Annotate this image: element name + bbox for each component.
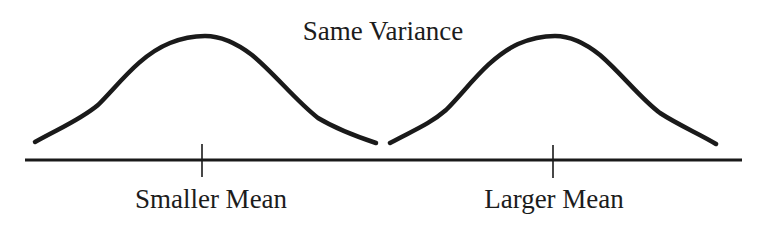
larger-mean-label: Larger Mean [484,186,624,213]
smaller-mean-label: Smaller Mean [135,186,287,213]
normal-distributions-diagram: Same Variance Smaller Mean Larger Mean [0,0,767,229]
curve-larger-mean [390,36,716,144]
curve-smaller-mean [35,36,376,143]
diagram-title: Same Variance [303,18,464,45]
